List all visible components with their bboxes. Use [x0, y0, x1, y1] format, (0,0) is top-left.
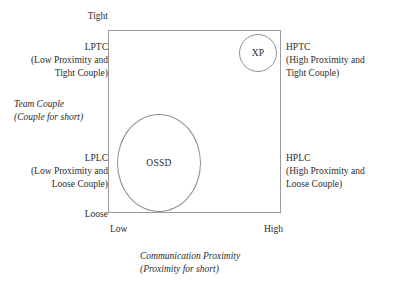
- y-axis-tick-tight: Tight: [48, 10, 108, 22]
- xp-circle-label: XP: [252, 48, 265, 58]
- x-axis-tick-high: High: [223, 223, 283, 235]
- quadrant-expansion-lptc-line2: Tight Couple): [0, 67, 108, 80]
- quadrant-label-hplc: HPLC (High Proximity and Loose Couple): [286, 152, 393, 192]
- x-axis-tick-low: Low: [110, 223, 127, 235]
- x-axis-caption-line2: (Proximity for short): [140, 263, 240, 276]
- x-axis-caption: Communication Proximity (Proximity for s…: [140, 250, 240, 276]
- quadrant-expansion-lplc-line1: (Low Proximity and: [0, 165, 108, 178]
- y-axis-caption-line1: Team Couple: [14, 98, 83, 111]
- quadrant-expansion-lplc-line2: Loose Couple): [0, 178, 108, 191]
- quadrant-code-lptc: LPTC: [0, 41, 108, 54]
- xp-circle-shape: XP: [239, 34, 277, 72]
- quadrant-diagram: XP OSSD Tight Loose Low High LPTC (Low P…: [0, 0, 393, 286]
- quadrant-code-hplc: HPLC: [286, 152, 393, 165]
- quadrant-expansion-hptc-line1: (High Proximity and: [286, 54, 393, 67]
- quadrant-code-lplc: LPLC: [0, 152, 108, 165]
- quadrant-code-hptc: HPTC: [286, 41, 393, 54]
- quadrant-label-hptc: HPTC (High Proximity and Tight Couple): [286, 41, 393, 81]
- quadrant-expansion-hplc-line2: Loose Couple): [286, 178, 393, 191]
- ossd-ellipse-shape: OSSD: [117, 114, 201, 212]
- y-axis-caption: Team Couple (Couple for short): [14, 98, 83, 124]
- quadrant-label-lptc: LPTC (Low Proximity and Tight Couple): [0, 41, 109, 81]
- y-axis-caption-line2: (Couple for short): [14, 111, 83, 124]
- ossd-ellipse-label: OSSD: [146, 158, 172, 168]
- quadrant-expansion-hptc-line2: Tight Couple): [286, 67, 393, 80]
- quadrant-expansion-hplc-line1: (High Proximity and: [286, 165, 393, 178]
- quadrant-label-lplc: LPLC (Low Proximity and Loose Couple): [0, 152, 109, 192]
- quadrant-expansion-lptc-line1: (Low Proximity and: [0, 54, 108, 67]
- x-axis-caption-line1: Communication Proximity: [140, 250, 240, 263]
- y-axis-tick-loose: Loose: [48, 208, 108, 220]
